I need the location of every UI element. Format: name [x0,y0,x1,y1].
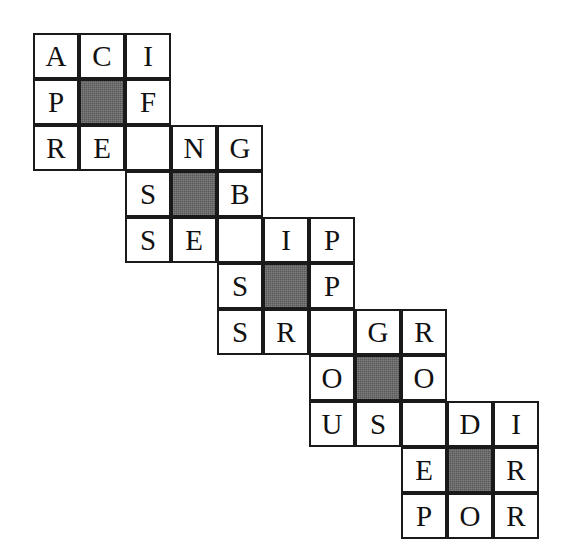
grid-cell-letter[interactable]: E [79,125,125,171]
grid-cell-letter[interactable]: C [79,33,125,79]
grid-cell-letter[interactable]: A [33,33,79,79]
grid-cell-shaded[interactable] [447,447,493,493]
grid-cell-shaded[interactable] [171,171,217,217]
grid-cell-letter[interactable]: S [355,401,401,447]
grid-cell-letter[interactable]: U [309,401,355,447]
grid-cell-letter[interactable]: S [217,263,263,309]
grid-cell-letter[interactable]: R [493,447,539,493]
grid-cell-letter[interactable]: R [33,125,79,171]
grid-cell-blank[interactable] [125,125,171,171]
grid-cell-letter[interactable]: O [447,493,493,539]
grid-cell-letter[interactable]: B [217,171,263,217]
grid-cell-letter[interactable]: I [493,401,539,447]
grid-cell-letter[interactable]: E [171,217,217,263]
grid-cell-blank[interactable] [309,309,355,355]
grid-cell-letter[interactable]: I [263,217,309,263]
grid-cell-letter[interactable]: O [309,355,355,401]
grid-cell-shaded[interactable] [263,263,309,309]
grid-cell-letter[interactable]: G [355,309,401,355]
grid-cell-letter[interactable]: G [217,125,263,171]
grid-cell-letter[interactable]: R [401,309,447,355]
grid-cell-letter[interactable]: P [401,493,447,539]
grid-cell-letter[interactable]: P [33,79,79,125]
grid-cell-shaded[interactable] [355,355,401,401]
grid-cell-letter[interactable]: P [309,263,355,309]
grid-cell-letter[interactable]: R [263,309,309,355]
grid-cell-letter[interactable]: I [125,33,171,79]
grid-cell-shaded[interactable] [79,79,125,125]
grid-cell-letter[interactable]: D [447,401,493,447]
grid-cell-letter[interactable]: E [401,447,447,493]
grid-cell-letter[interactable]: S [125,171,171,217]
grid-cell-blank[interactable] [401,401,447,447]
grid-cell-letter[interactable]: R [493,493,539,539]
grid-cell-letter[interactable]: P [309,217,355,263]
grid-cell-letter[interactable]: O [401,355,447,401]
grid-cell-letter[interactable]: F [125,79,171,125]
grid-cell-blank[interactable] [217,217,263,263]
grid-cell-letter[interactable]: N [171,125,217,171]
grid-cell-letter[interactable]: S [217,309,263,355]
grid-cell-letter[interactable]: S [125,217,171,263]
